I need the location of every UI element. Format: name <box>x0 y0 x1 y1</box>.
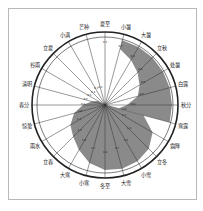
value-label: 0.8 <box>81 103 85 106</box>
solar-term-label: 白露 <box>178 80 189 88</box>
value-label: 0.5 <box>141 81 145 84</box>
solar-term-label: 冬至 <box>100 182 110 190</box>
solar-term-label: 大暑 <box>141 31 151 39</box>
value-label: 0.7 <box>140 93 144 96</box>
value-label: 1.0 <box>78 110 82 113</box>
solar-term-label: 芒种 <box>79 23 89 31</box>
solar-term-label: 寒露 <box>178 122 189 130</box>
solar-terms-polar-diagram: 夏至小暑大暑立秋处暑白露秋分寒露霜降立冬小雪大雪冬至小寒大寒立春雨水惊蛰春分清明… <box>0 0 203 211</box>
spoke <box>53 53 105 105</box>
solar-term-label: 小暑 <box>121 23 131 31</box>
value-label: 1.2 <box>77 118 81 121</box>
solar-term-label: 小满 <box>60 31 70 39</box>
value-label: 0.4 <box>138 68 142 71</box>
solar-term-label: 秋分 <box>181 101 191 109</box>
solar-term-label: 谷雨 <box>30 61 40 69</box>
value-label: 0.2 <box>98 86 102 89</box>
value-label: 0.5 <box>87 94 91 97</box>
value-label: 1.8 <box>103 151 107 154</box>
solar-term-label: 立春 <box>43 158 53 166</box>
value-label: 0.4 <box>91 91 95 94</box>
solar-term-label: 立夏 <box>43 44 54 51</box>
value-label: 1.0 <box>122 108 126 111</box>
solar-term-label: 立冬 <box>157 158 167 166</box>
value-label: 1.6 <box>82 139 86 142</box>
solar-term-label: 雨水 <box>30 142 41 150</box>
value-label: 0.2 <box>118 45 122 48</box>
solar-term-label: 清明 <box>22 80 32 88</box>
value-label: 1.6 <box>124 139 128 142</box>
solar-term-label: 霜降 <box>170 142 180 150</box>
value-label: 1.2 <box>122 114 126 117</box>
value-label: 1.7 <box>91 147 95 150</box>
value-label: 0.8 <box>131 103 135 106</box>
solar-term-label: 夏至 <box>100 21 110 27</box>
solar-term-label: 大雪 <box>121 179 131 187</box>
solar-term-label: 小寒 <box>79 179 89 187</box>
value-label: 0.3 <box>130 55 134 58</box>
solar-term-label: 立秋 <box>157 44 168 52</box>
solar-term-label: 处暑 <box>170 61 180 69</box>
solar-term-label: 春分 <box>19 101 29 109</box>
value-label: 1.4 <box>127 127 131 130</box>
value-label: 0.2 <box>103 41 107 44</box>
solar-term-label: 惊蛰 <box>22 122 32 130</box>
value-label: 1.7 <box>115 147 119 150</box>
value-label: 0.7 <box>84 98 88 101</box>
solar-term-label: 小雪 <box>141 171 151 179</box>
solar-term-label: 大寒 <box>60 171 70 179</box>
value-label: 1.4 <box>77 129 81 132</box>
